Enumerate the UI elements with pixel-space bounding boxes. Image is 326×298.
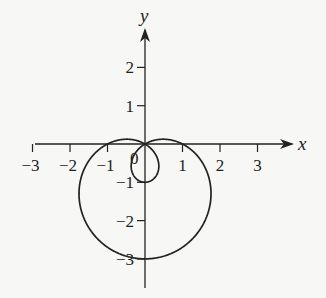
tick-labels: −3−2−112321−1−2−3 — [21, 58, 261, 269]
x-tick-label: −2 — [59, 156, 77, 175]
x-tick-label: −3 — [21, 156, 39, 175]
y-tick-label: −1 — [116, 173, 134, 192]
x-tick-label: 1 — [178, 156, 187, 175]
y-tick-label: 1 — [126, 97, 135, 116]
y-tick-label: 2 — [126, 58, 135, 77]
polar-plot: −3−2−112321−1−2−3 x y 0 — [0, 0, 326, 298]
y-axis-label: y — [138, 5, 149, 26]
y-tick-label: −2 — [116, 212, 134, 231]
x-tick-label: 2 — [216, 156, 225, 175]
x-tick-label: 3 — [253, 156, 262, 175]
x-axis-label: x — [297, 133, 307, 154]
origin-label: 0 — [130, 149, 139, 168]
x-tick-label: −1 — [96, 156, 114, 175]
